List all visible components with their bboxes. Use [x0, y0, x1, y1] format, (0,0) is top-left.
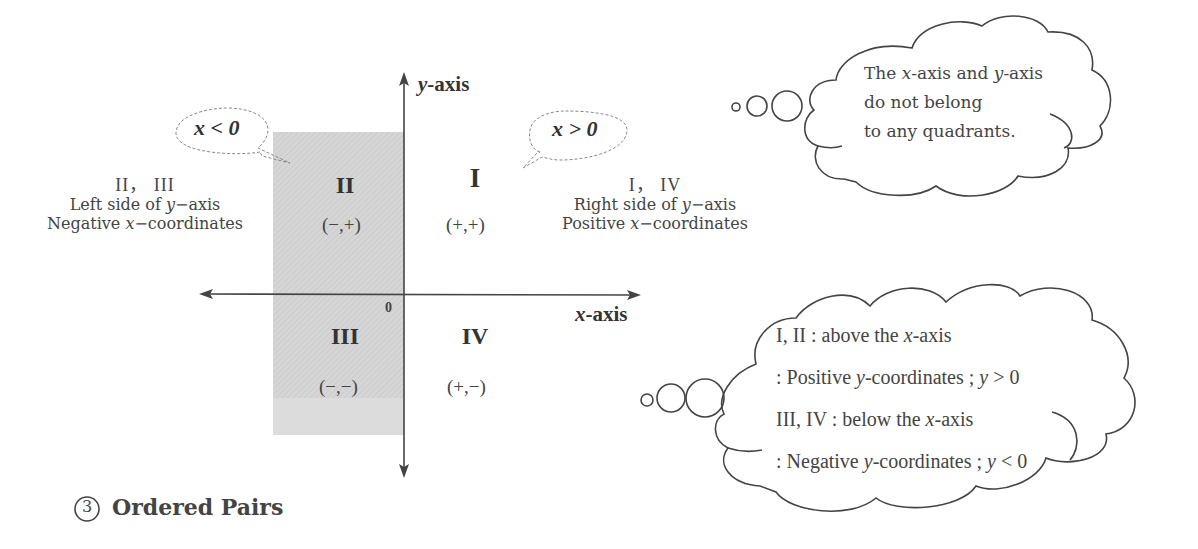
right-side-description: I， IV Right side of y−axis Positive x−co…: [530, 176, 780, 233]
thought-cloud-bottom-text: I, II : above the x-axis : Positive y-co…: [776, 314, 1027, 482]
quadrant-i-signs: (+,+): [446, 214, 485, 236]
quadrant-ii-label: II: [325, 172, 365, 199]
right-side-line1: Right side of y−axis: [530, 195, 780, 214]
quadrant-iii-signs: (−,−): [319, 376, 358, 398]
section-number: 3: [78, 497, 96, 516]
cloud-bottom-line1: I, II : above the x-axis: [776, 314, 1027, 356]
callout-left-text: x < 0: [194, 115, 240, 141]
left-side-description: II， III Left side of y−axis Negative x−c…: [20, 176, 270, 233]
left-side-numerals: II， III: [20, 176, 270, 195]
cloud-bottom-line3: III, IV : below the x-axis: [776, 398, 1027, 440]
cloud-top-line2: do not belong: [864, 88, 1043, 117]
x-axis-line: [199, 289, 641, 300]
cloud-top-line3: to any quadrants.: [864, 117, 1043, 146]
cloud-top-line1: The x-axis and y-axis: [864, 59, 1043, 88]
quadrant-iv-signs: (+,−): [447, 376, 486, 398]
cloud-bottom-line4: : Negative y-coordinates ; y < 0: [776, 440, 1027, 482]
quadrant-iv-label: IV: [455, 323, 495, 350]
y-axis-label: y-axis: [418, 72, 469, 97]
left-side-line1: Left side of y−axis: [20, 195, 270, 214]
quadrant-iii-label: III: [320, 323, 370, 350]
section-title: Ordered Pairs: [112, 494, 283, 520]
right-side-numerals: I， IV: [530, 176, 780, 195]
x-axis-label: x-axis: [575, 302, 628, 327]
quadrant-ii-signs: (−,+): [322, 214, 361, 236]
left-side-line2: Negative x−coordinates: [20, 214, 270, 233]
thought-cloud-top-text: The x-axis and y-axis do not belong to a…: [864, 59, 1043, 146]
callout-right-text: x > 0: [552, 116, 598, 142]
cloud-bottom-line2: : Positive y-coordinates ; y > 0: [776, 356, 1027, 398]
right-side-line2: Positive x−coordinates: [530, 214, 780, 233]
quadrant-i-label: I: [460, 163, 490, 194]
origin-label: 0: [385, 300, 392, 316]
